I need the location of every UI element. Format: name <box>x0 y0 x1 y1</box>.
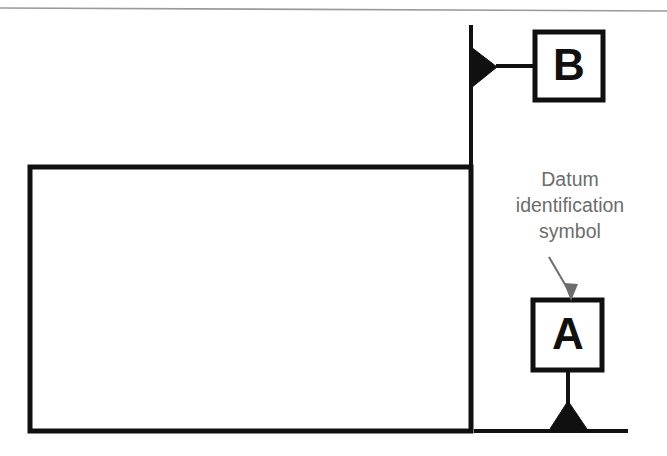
datum-triangle-a-icon <box>548 401 589 432</box>
datum-letter-b: B <box>553 40 585 89</box>
technical-drawing: B A Datum identification symbol <box>0 0 667 456</box>
callout-line-1: Datum <box>541 168 598 190</box>
callout-line-3: symbol <box>539 220 601 242</box>
datum-letter-a: A <box>552 309 584 358</box>
datum-feature-symbol-b: B <box>471 32 603 100</box>
part-rectangle <box>30 167 471 431</box>
figure-canvas: B A Datum identification symbol <box>0 0 667 456</box>
datum-feature-symbol-a: A <box>533 300 602 432</box>
callout-line-2: identification <box>516 194 624 216</box>
datum-triangle-b-icon <box>471 47 497 88</box>
page-top-rule <box>0 8 667 11</box>
datum-identification-callout: Datum identification symbol <box>516 168 624 301</box>
